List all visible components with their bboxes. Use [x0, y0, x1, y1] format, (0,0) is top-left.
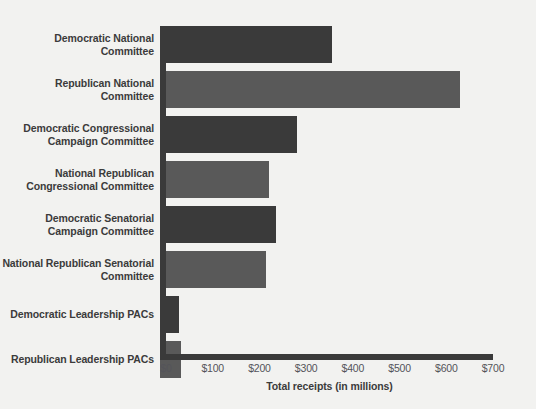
- x-axis-line: [160, 354, 493, 360]
- x-axis-tick-label: $500: [388, 362, 411, 374]
- bar-row: Democratic Congressional Campaign Commit…: [0, 116, 536, 153]
- bar-track: [160, 296, 536, 333]
- bar-chart: Democratic National Committee Republican…: [0, 0, 536, 409]
- bar-value: [160, 71, 460, 108]
- bar-row: Democratic Senatorial Campaign Committee: [0, 206, 536, 243]
- bar-value: [160, 251, 266, 288]
- bar-row: Republican National Committee: [0, 71, 536, 108]
- x-axis-title: Total receipts (in millions): [166, 380, 493, 392]
- bar-value: [160, 26, 332, 63]
- chart-plot-area: Democratic National Committee Republican…: [0, 26, 536, 386]
- bar-category-label: Democratic Leadership PACs: [0, 308, 160, 321]
- bar-row: National Republican Senatorial Committee: [0, 251, 536, 288]
- x-axis-tick-label: $100: [201, 362, 224, 374]
- x-axis-ticks: $0$100$200$300$400$500$600$700: [0, 362, 536, 378]
- x-axis-tick-label: $700: [482, 362, 505, 374]
- x-axis-tick-label: $300: [295, 362, 318, 374]
- bar-category-label: National Republican Senatorial Committee: [0, 257, 160, 282]
- y-axis-line: [160, 26, 166, 360]
- x-axis-tick-label: $0: [160, 362, 171, 374]
- x-axis-tick-label: $600: [435, 362, 458, 374]
- bar-category-label: Republican National Committee: [0, 77, 160, 102]
- x-axis-tick-label: $400: [342, 362, 365, 374]
- bar-track: [160, 251, 536, 288]
- bar-value: [160, 206, 276, 243]
- bar-value: [160, 161, 269, 198]
- bar-track: [160, 71, 536, 108]
- bar-category-label: Democratic Congressional Campaign Commit…: [0, 122, 160, 147]
- bar-row: Democratic National Committee: [0, 26, 536, 63]
- bar-row: National Republican Congressional Commit…: [0, 161, 536, 198]
- bar-category-label: Democratic Senatorial Campaign Committee: [0, 212, 160, 237]
- bar-value: [160, 116, 297, 153]
- bar-track: [160, 161, 536, 198]
- bar-track: [160, 26, 536, 63]
- bar-category-label: Democratic National Committee: [0, 32, 160, 57]
- x-axis-tick-label: $200: [248, 362, 271, 374]
- bar-row: Democratic Leadership PACs: [0, 296, 536, 333]
- bar-track: [160, 206, 536, 243]
- bar-category-label: National Republican Congressional Commit…: [0, 167, 160, 192]
- bar-track: [160, 116, 536, 153]
